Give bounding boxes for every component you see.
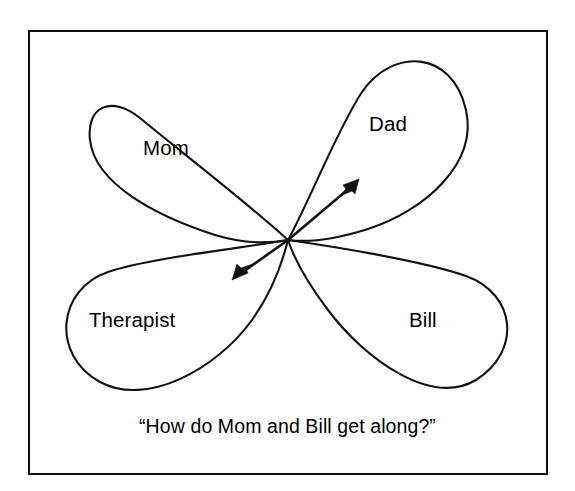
figure-container: Mom Dad Therapist Bill “How do Mom and B…: [0, 0, 575, 491]
figure-caption: “How do Mom and Bill get along?”: [0, 415, 575, 438]
node-label-mom: Mom: [143, 136, 189, 160]
figure-frame-border: [28, 30, 548, 475]
node-label-bill: Bill: [409, 308, 437, 332]
node-label-therapist: Therapist: [89, 308, 175, 332]
node-label-dad: Dad: [369, 112, 407, 136]
